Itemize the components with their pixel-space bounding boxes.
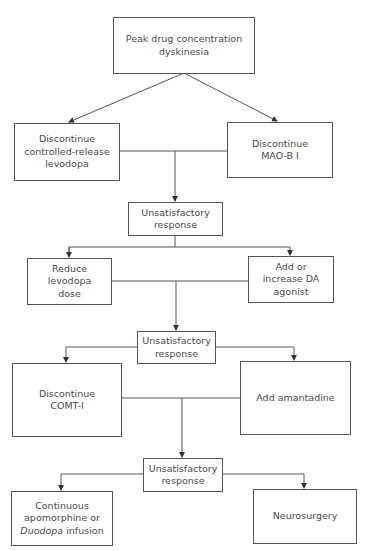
node-text: Unsatisfactory — [149, 463, 218, 476]
node-reduce-levodopa-dose: Reduce levodopa dose — [27, 258, 112, 305]
node-text: controlled-release — [24, 146, 110, 159]
node-text: apomorphine or — [20, 512, 103, 525]
node-unsatisfactory-response-3: Unsatisfactory response — [143, 458, 223, 492]
node-text: COMT-I — [39, 400, 95, 413]
node-text: Reduce — [48, 263, 92, 276]
node-text: levodopa — [24, 158, 110, 171]
node-text: Unsatisfactory — [142, 335, 211, 348]
node-text: response — [142, 348, 211, 361]
node-text: levodopa — [48, 275, 92, 288]
node-text: dose — [48, 288, 92, 301]
node-discontinue-cr-levodopa: Discontinue controlled-release levodopa — [14, 123, 120, 181]
node-text: Add amantadine — [256, 392, 334, 405]
node-text: Peak drug concentration — [126, 33, 242, 46]
node-neurosurgery: Neurosurgery — [253, 489, 357, 544]
node-text: Unsatisfactory — [141, 207, 210, 220]
node-text: Continuous — [20, 500, 103, 513]
node-text: agonist — [263, 286, 320, 299]
node-text: response — [141, 219, 210, 232]
node-discontinue-maob: Discontinue MAO-B I — [227, 122, 333, 178]
node-add-amantadine: Add amantadine — [240, 361, 351, 435]
duodopa-brand: Duodopa — [20, 525, 63, 536]
node-text-line3: Duodopa infusion — [20, 525, 103, 538]
node-text: MAO-B I — [252, 150, 308, 163]
node-unsatisfactory-response-1: Unsatisfactory response — [128, 202, 223, 236]
node-peak-drug-dyskinesia: Peak drug concentration dyskinesia — [113, 17, 255, 74]
node-unsatisfactory-response-2: Unsatisfactory response — [137, 331, 216, 364]
node-text: response — [149, 475, 218, 488]
node-text: Discontinue — [39, 388, 95, 401]
node-text: Add or — [263, 261, 320, 274]
node-add-da-agonist: Add or increase DA agonist — [248, 256, 334, 303]
node-text: Discontinue — [24, 133, 110, 146]
node-text: increase DA — [263, 273, 320, 286]
node-text: infusion — [63, 525, 103, 536]
node-continuous-apomorphine: Continuous apomorphine or Duodopa infusi… — [11, 491, 113, 546]
node-text: dyskinesia — [126, 46, 242, 59]
node-discontinue-comt: Discontinue COMT-I — [12, 363, 122, 437]
node-text: Discontinue — [252, 138, 308, 151]
node-text: Neurosurgery — [273, 510, 338, 523]
